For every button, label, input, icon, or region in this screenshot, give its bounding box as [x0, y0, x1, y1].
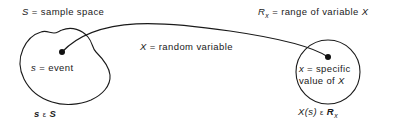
event-equals: = — [39, 62, 45, 73]
random-variable-symbol: X — [140, 41, 147, 52]
label-random-variable: X = random variable — [140, 41, 233, 52]
specific-value-equals: = — [307, 63, 313, 74]
membership-left-relation: ε — [43, 110, 47, 119]
membership-right-relation: ε — [320, 108, 324, 117]
random-variable-text: random variable — [159, 41, 233, 52]
label-range: Rx = range of variable X — [258, 6, 369, 21]
specific-value-line1: x = specific — [299, 63, 351, 75]
sample-space-equals: = — [32, 6, 38, 17]
range-subscript: x — [265, 12, 269, 19]
specific-value-prefix: value of — [299, 75, 335, 86]
range-equals: = — [272, 6, 278, 17]
membership-right-element: X(s) — [298, 106, 317, 117]
specific-value-dot — [325, 54, 331, 60]
random-variable-diagram: S = sample space Rx = range of variable … — [0, 0, 405, 127]
sample-space-text: sample space — [41, 6, 104, 17]
random-variable-equals: = — [150, 41, 156, 52]
event-symbol: s — [31, 62, 36, 73]
event-text: event — [48, 62, 73, 73]
label-membership-left: s ε S — [34, 108, 56, 120]
membership-left-set: S — [50, 108, 57, 119]
specific-value-variable: X — [338, 75, 345, 86]
event-dot — [59, 49, 65, 55]
range-variable: X — [362, 6, 369, 17]
range-text: range of variable — [281, 6, 359, 17]
specific-value-line2: value of X — [299, 75, 351, 87]
label-membership-right: X(s) ε Rx — [298, 106, 338, 121]
membership-right-subscript: x — [334, 112, 338, 119]
membership-left-element: s — [34, 108, 40, 119]
specific-value-text: specific — [316, 63, 350, 74]
label-specific-value: x = specific value of X — [299, 63, 351, 86]
label-sample-space: S = sample space — [22, 6, 104, 17]
specific-value-symbol: x — [299, 63, 304, 74]
sample-space-symbol: S — [22, 6, 29, 17]
label-event: s = event — [31, 62, 73, 73]
